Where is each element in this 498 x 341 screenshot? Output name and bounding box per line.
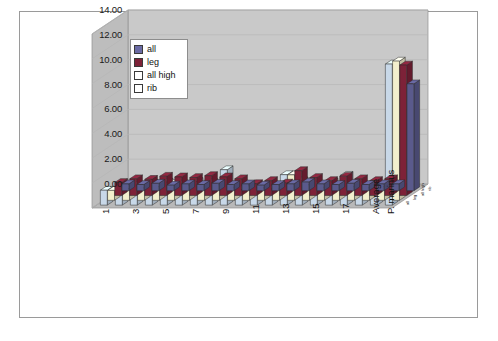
- legend-swatch-icon: [134, 84, 143, 93]
- legend-item-leg: leg: [134, 56, 183, 69]
- legend-item-rib: rib: [134, 82, 183, 95]
- y-axis-tick-label: 8.00: [76, 79, 122, 90]
- x-axis-tick-label: Average: [370, 178, 381, 213]
- x-axis-tick-label: 5: [160, 208, 171, 213]
- x-axis-tick-label: 11: [250, 204, 261, 214]
- legend-swatch-icon: [134, 58, 143, 67]
- chart-3d-column: 14.0012.0010.008.006.004.002.000.0013579…: [0, 0, 498, 341]
- x-axis-tick-label: 9: [220, 208, 231, 213]
- x-axis-tick-label: 3: [130, 208, 141, 213]
- legend-item-all-high: all high: [134, 69, 183, 82]
- legend-item-label: leg: [147, 56, 159, 69]
- depth-axis-tick-label: rib: [427, 186, 432, 190]
- x-axis-tick-label: 15: [310, 203, 321, 214]
- bar-all-P. marinus: [407, 80, 420, 191]
- x-axis-tick-label: 13: [280, 203, 291, 214]
- x-axis-tick-label: P. marinus: [385, 169, 396, 213]
- chart-canvas: [0, 0, 498, 341]
- legend-item-label: all: [147, 43, 156, 56]
- legend-swatch-icon: [134, 45, 143, 54]
- legend-item-label: all high: [147, 69, 176, 82]
- legend-item-label: rib: [147, 82, 157, 95]
- legend-item-all: all: [134, 43, 183, 56]
- y-axis-tick-label: 10.00: [76, 54, 122, 65]
- depth-axis-tick-label: leg: [412, 195, 417, 200]
- chart-legend: alllegall highrib: [130, 39, 188, 99]
- y-axis-tick-label: 0.00: [76, 178, 122, 189]
- y-axis-tick-label: 12.00: [76, 29, 122, 40]
- depth-axis-tick-label: all high: [420, 183, 425, 196]
- legend-swatch-icon: [134, 71, 143, 80]
- y-axis-tick-label: 4.00: [76, 128, 122, 139]
- y-axis-tick-label: 14.00: [76, 4, 122, 15]
- x-axis-tick-label: 7: [190, 208, 201, 213]
- depth-axis-tick-label: all: [405, 201, 410, 205]
- y-axis-tick-label: 6.00: [76, 103, 122, 114]
- x-axis-tick-label: 1: [100, 208, 111, 213]
- x-axis-tick-label: 17: [340, 203, 351, 214]
- y-axis-tick-label: 2.00: [76, 153, 122, 164]
